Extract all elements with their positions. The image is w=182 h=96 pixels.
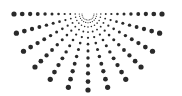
- burst-dot: [36, 12, 40, 16]
- burst-dot: [50, 48, 54, 52]
- burst-dot: [64, 13, 66, 15]
- burst-dot: [68, 44, 71, 47]
- burst-dot: [81, 24, 83, 26]
- burst-dot: [112, 27, 115, 30]
- burst-dot: [142, 27, 146, 31]
- burst-dot: [118, 31, 121, 34]
- burst-dot: [127, 53, 131, 57]
- burst-dot: [109, 19, 111, 21]
- burst-dot: [93, 36, 95, 38]
- sunburst-dot-graphic: [0, 0, 182, 96]
- burst-dot: [32, 64, 37, 69]
- burst-dot: [86, 49, 89, 52]
- burst-dot: [21, 49, 26, 54]
- burst-dot: [128, 23, 131, 26]
- burst-dot: [133, 59, 138, 64]
- burst-dot: [117, 43, 120, 46]
- burst-dot: [100, 26, 102, 28]
- burst-dot: [96, 22, 98, 24]
- burst-dot: [96, 48, 99, 51]
- burst-dot: [57, 13, 60, 16]
- burst-dot: [86, 56, 89, 59]
- burst-dot: [74, 13, 76, 15]
- burst-dot: [61, 38, 64, 41]
- burst-dot: [28, 12, 32, 16]
- burst-dot: [66, 85, 71, 90]
- burst-dot: [44, 53, 48, 57]
- burst-dot: [94, 20, 95, 21]
- burst-dot: [20, 12, 25, 17]
- burst-dot: [130, 37, 134, 41]
- burst-dot: [151, 12, 156, 17]
- burst-dot: [108, 50, 111, 53]
- burst-dot: [87, 31, 89, 33]
- burst-dot: [96, 16, 97, 17]
- burst-dot: [149, 29, 154, 34]
- burst-dot: [150, 49, 155, 54]
- burst-dot: [87, 22, 88, 23]
- burst-dot: [81, 36, 83, 38]
- burst-dot: [56, 63, 60, 67]
- burst-dot: [84, 26, 86, 28]
- burst-dot: [66, 34, 69, 37]
- burst-dot: [78, 29, 80, 31]
- burst-dot: [69, 13, 71, 15]
- burst-dot: [75, 33, 77, 35]
- burst-dot: [129, 12, 132, 15]
- burst-dot: [83, 21, 84, 22]
- burst-dot: [98, 55, 101, 58]
- burst-dot: [67, 25, 69, 27]
- burst-dot: [115, 63, 119, 67]
- burst-dot: [74, 26, 76, 28]
- burst-dot: [78, 22, 80, 24]
- burst-dot: [83, 18, 84, 19]
- burst-dot: [119, 70, 124, 75]
- burst-dot: [94, 24, 96, 26]
- burst-dot: [82, 14, 83, 15]
- burst-dot: [104, 30, 106, 32]
- burst-dot: [105, 85, 110, 90]
- burst-dot: [115, 20, 118, 23]
- burst-dot: [79, 13, 80, 14]
- burst-dot: [94, 14, 95, 15]
- burst-dot: [92, 18, 93, 19]
- burst-dot: [82, 17, 83, 18]
- burst-dot: [11, 11, 16, 16]
- burst-dot: [85, 19, 86, 20]
- burst-dot: [103, 22, 105, 24]
- burst-dot: [93, 17, 94, 18]
- burst-dot: [28, 45, 33, 50]
- burst-dot: [70, 18, 72, 20]
- burst-dot: [50, 12, 53, 15]
- burst-dot: [104, 18, 106, 20]
- burst-dot: [72, 39, 75, 42]
- burst-dot: [58, 20, 61, 23]
- burst-dot: [75, 55, 78, 58]
- burst-dot: [91, 26, 93, 28]
- burst-dot: [88, 20, 89, 21]
- burst-dot: [99, 33, 101, 35]
- burst-dot: [144, 12, 148, 16]
- burst-dot: [102, 39, 105, 42]
- burst-dot: [91, 19, 92, 20]
- burst-dot: [105, 44, 108, 47]
- burst-dot: [82, 31, 84, 33]
- burst-dot: [52, 70, 57, 75]
- burst-dot: [121, 22, 124, 25]
- burst-dot: [71, 69, 75, 73]
- burst-dot: [100, 17, 102, 19]
- burst-dot: [86, 79, 91, 84]
- burst-dot: [95, 18, 96, 19]
- burst-dot: [35, 41, 39, 45]
- burst-dot: [55, 31, 58, 34]
- burst-dot: [42, 37, 46, 41]
- burst-dot: [159, 11, 164, 16]
- burst-dot: [122, 48, 126, 52]
- burst-dot: [60, 56, 64, 60]
- burst-dot: [143, 45, 148, 50]
- burst-dot: [87, 43, 90, 46]
- burst-dot: [93, 15, 94, 16]
- burst-dot: [86, 64, 90, 68]
- burst-dot: [80, 18, 81, 19]
- burst-dot: [100, 13, 102, 15]
